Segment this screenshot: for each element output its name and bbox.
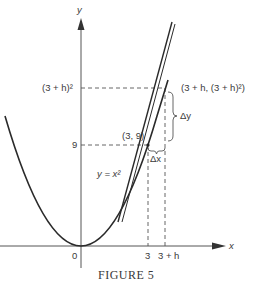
x-axis-label: x [229,241,234,251]
y-axis-arrow-icon [78,18,85,30]
point-3-9 [146,143,149,146]
curve-label: y = x² [97,169,121,179]
y-axis-label: y [77,5,82,15]
x-tick-3h: 3 + h [158,251,179,261]
origin-label: 0 [72,251,77,261]
secant-line [118,22,172,222]
x-tick-3: 3 [145,251,150,261]
delta-y-label: Δy [180,111,191,121]
figure-caption: FIGURE 5 [98,268,154,282]
y-tick-3h-squared: (3 + h)² [42,83,73,93]
y-tick-9: 9 [72,140,77,150]
figure-5-diagram: y x 0 (3 + h)² 9 3 3 + h (3, 9) (3 + h, … [0,0,254,282]
x-axis-arrow-icon [212,243,226,250]
tangent-line [122,24,175,222]
delta-x-label: Δx [150,154,161,164]
diagram-canvas [0,0,254,282]
parabola-curve [5,80,168,246]
point-label-3-9: (3, 9) [122,131,144,141]
point-label-3h: (3 + h, (3 + h)²) [181,83,245,93]
dy-brace [168,92,177,141]
